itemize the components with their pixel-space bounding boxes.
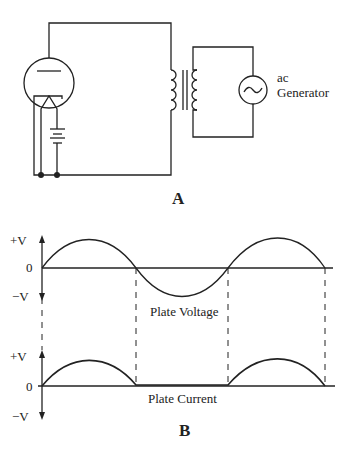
transformer-core-icon bbox=[183, 70, 187, 110]
ac-generator-icon bbox=[239, 76, 267, 104]
figure-a-label: A bbox=[172, 192, 184, 206]
transformer-primary-coil-icon bbox=[171, 70, 176, 110]
generator-label-generator: Generator bbox=[277, 86, 329, 100]
plate-current-graph bbox=[38, 355, 335, 416]
dashed-guides bbox=[42, 268, 325, 386]
diagram-canvas bbox=[0, 0, 354, 457]
voltage-y-bottom-label: −V bbox=[12, 290, 29, 304]
current-y-top-label: +V bbox=[10, 350, 27, 364]
voltage-y-top-label: +V bbox=[10, 234, 27, 248]
transformer-secondary-coil-icon bbox=[192, 70, 197, 110]
vacuum-tube-icon bbox=[24, 58, 74, 175]
voltage-sine-wave bbox=[42, 238, 325, 297]
current-y-zero-label: 0 bbox=[26, 380, 33, 394]
plate-current-label: Plate Current bbox=[148, 392, 217, 406]
battery-icon bbox=[50, 124, 65, 175]
voltage-y-zero-label: 0 bbox=[26, 261, 33, 275]
generator-label-ac: ac bbox=[277, 71, 289, 85]
plate-circuit-wire bbox=[34, 23, 171, 175]
current-y-bottom-label: −V bbox=[12, 410, 29, 424]
plate-voltage-label: Plate Voltage bbox=[150, 305, 219, 319]
figure-b-label: B bbox=[179, 424, 190, 438]
current-half-wave bbox=[42, 359, 325, 386]
